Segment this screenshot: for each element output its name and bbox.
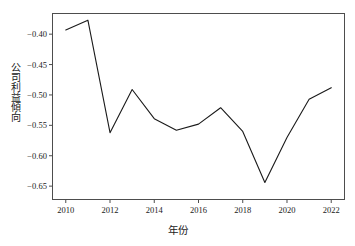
x-axis-title: 年份 <box>0 222 355 237</box>
x-tick-label: 2022 <box>323 205 340 215</box>
y-tick-label: −0.50 <box>8 90 47 100</box>
y-tick-label: −0.40 <box>8 29 47 39</box>
chart-figure: 公司利益傾向 年份 −0.40−0.45−0.50−0.55−0.60−0.65… <box>0 0 355 246</box>
y-tick-label: −0.60 <box>8 151 47 161</box>
y-axis-ticks <box>49 34 53 186</box>
line-chart-canvas <box>0 0 355 246</box>
x-tick-label: 2018 <box>234 205 251 215</box>
x-tick-label: 2020 <box>278 205 295 215</box>
x-axis-ticks <box>66 200 331 204</box>
x-tick-label: 2012 <box>102 205 119 215</box>
x-tick-label: 2010 <box>57 205 74 215</box>
y-tick-label: −0.45 <box>8 60 47 70</box>
y-tick-label: −0.65 <box>8 181 47 191</box>
x-tick-label: 2016 <box>190 205 207 215</box>
y-tick-label: −0.55 <box>8 120 47 130</box>
plot-frame <box>53 14 345 200</box>
x-tick-label: 2014 <box>146 205 163 215</box>
